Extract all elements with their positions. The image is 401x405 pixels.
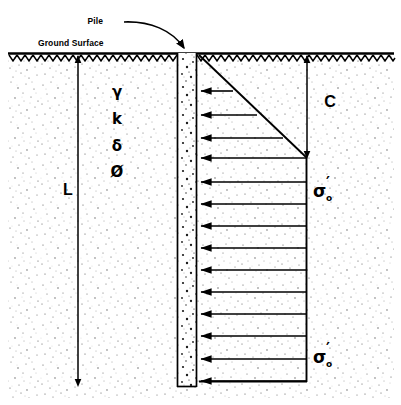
sigma-subscript-glyph: o [326,359,332,369]
sigma-glyph: σ [313,181,326,201]
pile-length-label: L [63,181,73,198]
sigma-subscript-glyph: o [326,193,332,203]
lateral-coefficient-label: k [112,110,123,128]
unit-weight-label: γ [112,83,122,101]
pile-label: Pile [87,16,103,26]
pile-pressure-diagram: Pile Ground Surface γ k δ Ø L C σ ′ o σ … [0,0,401,405]
friction-angle-label: Ø [111,163,124,181]
sigma-prime-glyph: ′ [326,340,330,358]
interface-friction-label: δ [112,137,122,155]
critical-depth-label: C [324,93,336,110]
pile-fill [177,53,196,387]
sigma-prime-glyph: ′ [326,174,330,192]
ground-surface-label: Ground Surface [38,38,104,48]
sigma-glyph: σ [313,347,326,367]
pile-shaft [177,53,197,387]
